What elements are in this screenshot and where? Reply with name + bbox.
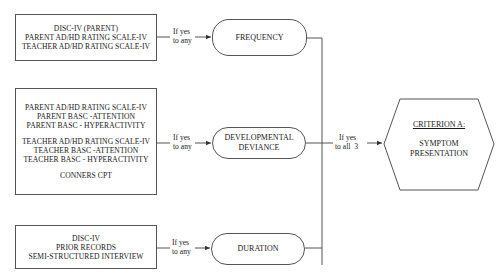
source-line: PRIOR RECORDS	[56, 243, 116, 252]
condition-label-all: If yes to all 3	[335, 133, 358, 151]
condition-line: to any	[173, 36, 192, 45]
source-line: SEMI-STRUCTURED INTERVIEW	[28, 252, 143, 261]
condition-label-deviance: If yes to any	[173, 133, 192, 151]
criterion-a-flowchart: DISC-IV (PARENT) PARENT AD/HD RATING SCA…	[0, 0, 501, 280]
source-line: PARENT AD/HD RATING SCALE-IV	[25, 103, 147, 112]
condition-line: to all 3	[335, 142, 358, 151]
node-label: FREQUENCY	[235, 33, 283, 43]
source-line: TEACHER BASC - HYPERACTIVITY	[23, 155, 148, 164]
condition-line: If yes	[173, 133, 192, 142]
condition-line: If yes	[172, 238, 191, 247]
frequency-node: FREQUENCY	[212, 19, 307, 56]
source-line: TEACHER AD/HD RATING SCALE-IV	[22, 137, 150, 146]
source-line: TEACHER BASC -ATTENTION	[34, 146, 139, 155]
source-line: PARENT AD/HD RATING SCALE-IV	[25, 33, 147, 42]
condition-label-duration: If yes to any	[172, 238, 191, 256]
source-line: DISC-IV (PARENT)	[54, 24, 118, 33]
duration-sources-box: DISC-IV PRIOR RECORDS SEMI-STRUCTURED IN…	[15, 225, 157, 269]
deviance-sources-box: PARENT AD/HD RATING SCALE-IV PARENT BASC…	[15, 88, 157, 195]
outcome-label: CRITERION A: SYMPTOM PRESENTATION	[394, 120, 484, 159]
source-line: CONNERS CPT	[60, 171, 112, 180]
condition-line: If yes	[173, 27, 192, 36]
developmental-deviance-node: DEVELOPMENTAL DEVIANCE	[212, 127, 306, 159]
outcome-title: CRITERION A:	[394, 120, 484, 130]
duration-node: DURATION	[211, 233, 305, 265]
condition-line: to any	[173, 142, 192, 151]
condition-label-frequency: If yes to any	[173, 27, 192, 45]
node-label: DURATION	[238, 244, 279, 254]
source-line: PARENT BASC -ATTENTION	[37, 112, 135, 121]
source-line: PARENT BASC - HYPERACTIVITY	[27, 121, 146, 130]
node-label: DEVELOPMENTAL	[224, 133, 293, 143]
source-line: DISC-IV	[72, 234, 100, 243]
outcome-line: PRESENTATION	[394, 149, 484, 159]
node-label: DEVIANCE	[239, 143, 280, 153]
outcome-line: SYMPTOM	[394, 139, 484, 149]
condition-line: to any	[172, 247, 191, 256]
frequency-sources-box: DISC-IV (PARENT) PARENT AD/HD RATING SCA…	[15, 14, 157, 61]
source-line: TEACHER AD/HD RATING SCALE-IV	[22, 42, 150, 51]
condition-line: If yes	[335, 133, 358, 142]
